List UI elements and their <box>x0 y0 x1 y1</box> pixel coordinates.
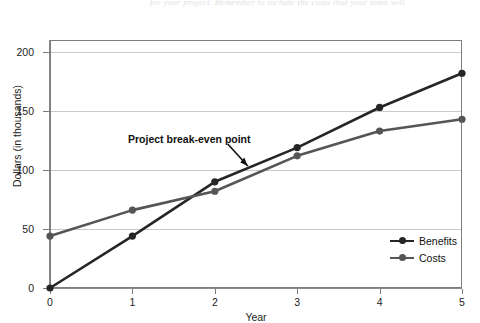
series-layer <box>0 0 480 323</box>
data-point-costs <box>129 207 136 214</box>
legend-item: Costs <box>390 249 457 266</box>
data-point-benefits <box>458 70 465 77</box>
data-point-costs <box>211 188 218 195</box>
legend-marker-icon <box>390 253 414 262</box>
data-point-benefits <box>129 232 136 239</box>
data-point-costs <box>376 127 383 134</box>
legend-item-label: Benefits <box>419 235 457 247</box>
data-point-benefits <box>211 178 218 185</box>
data-point-costs <box>294 152 301 159</box>
legend-marker-icon <box>390 236 414 245</box>
data-point-costs <box>458 116 465 123</box>
legend-item: Benefits <box>390 232 457 249</box>
data-point-benefits <box>46 284 53 291</box>
breakeven-annotation-label: Project break-even point <box>128 133 251 145</box>
series-line-costs <box>50 119 462 236</box>
chart-legend: BenefitsCosts <box>390 232 457 266</box>
data-point-costs <box>46 232 53 239</box>
chart-figure: for your project. Remember to include th… <box>0 0 480 323</box>
data-point-benefits <box>376 104 383 111</box>
data-point-benefits <box>294 144 301 151</box>
legend-item-label: Costs <box>419 252 446 264</box>
